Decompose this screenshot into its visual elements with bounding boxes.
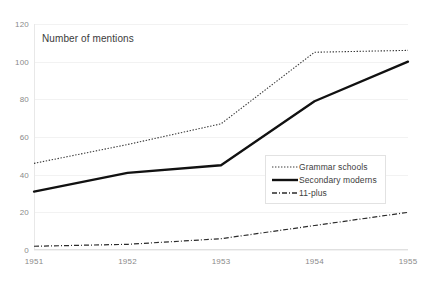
y-axis-tick-label: 80 — [20, 95, 29, 104]
chart-legend: Grammar schools Secondary moderns 11-plu… — [265, 155, 386, 204]
legend-label-grammar-schools: Grammar schools — [299, 162, 368, 172]
series-lines — [34, 24, 408, 250]
x-axis-tick-label: 1953 — [212, 257, 231, 266]
y-axis-tick-label: 60 — [20, 133, 29, 142]
x-axis-tick-label: 1951 — [25, 257, 44, 266]
line-grammar-schools — [34, 50, 408, 163]
legend-label-11-plus: 11-plus — [299, 188, 327, 198]
x-axis-tick-label: 1952 — [118, 257, 137, 266]
y-axis-tick-label: 100 — [15, 57, 29, 66]
chart-container: Number of mentions 020406080100120 19511… — [0, 0, 436, 306]
y-axis-tick-label: 120 — [15, 20, 29, 29]
legend-item-grammar-schools: Grammar schools — [271, 160, 380, 173]
line-11-plus — [34, 212, 408, 246]
legend-solid-line-icon — [271, 175, 299, 185]
legend-dotted-line-icon — [271, 162, 299, 172]
legend-dash-dot-line-icon — [271, 188, 299, 198]
y-axis-tick-label: 40 — [20, 170, 29, 179]
y-axis-tick-label: 20 — [20, 208, 29, 217]
plot-area: 020406080100120 19511952195319541955 — [34, 24, 408, 250]
x-axis-tick-label: 1955 — [399, 257, 418, 266]
x-axis-tick-label: 1954 — [305, 257, 324, 266]
legend-item-secondary-moderns: Secondary moderns — [271, 173, 380, 186]
gridline — [34, 250, 408, 251]
legend-item-11-plus: 11-plus — [271, 186, 380, 199]
legend-label-secondary-moderns: Secondary moderns — [299, 175, 377, 185]
y-axis-tick-label: 0 — [24, 246, 29, 255]
